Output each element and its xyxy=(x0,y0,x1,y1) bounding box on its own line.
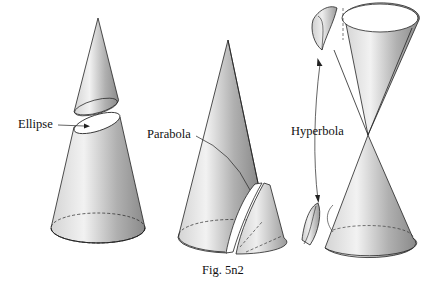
ellipse-label: Ellipse xyxy=(18,117,53,132)
figure-caption: Fig. 5n2 xyxy=(202,263,244,278)
hyperbola-label: Hyperbola xyxy=(291,124,344,139)
parabola-label: Parabola xyxy=(147,127,191,142)
ellipse-cone-bottom xyxy=(51,108,145,243)
hyperbola-upper-piece xyxy=(312,7,337,50)
conic-sections-diagram xyxy=(0,0,437,283)
ellipse-cone-top xyxy=(73,18,119,119)
hyperbola-lower-piece xyxy=(302,203,320,245)
